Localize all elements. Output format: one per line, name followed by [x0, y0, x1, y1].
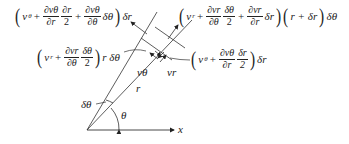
delta-theta-leader	[96, 102, 106, 104]
x-axis-label: x	[178, 124, 183, 135]
expr-sub: θ	[204, 55, 207, 63]
delta-theta-arc	[106, 100, 113, 103]
expr-frac: ∂r2	[61, 5, 72, 27]
expr-op: +	[55, 51, 61, 63]
expr-term: v	[44, 51, 49, 63]
expr-frac: δr2	[237, 48, 248, 70]
expr-term: v	[186, 10, 191, 22]
expr-term: δθ	[327, 10, 338, 22]
expr-sub: r	[192, 12, 195, 20]
expr-term: r + δr	[291, 10, 318, 22]
expr-frac: ∂vr∂θ	[206, 5, 221, 27]
arrow-top-right	[168, 25, 178, 39]
arrow-top-left	[131, 22, 147, 34]
theta-label: θ	[121, 110, 126, 121]
theta-arc	[111, 108, 119, 130]
expr-frac: δθ2	[223, 5, 235, 27]
expr-top-right: ( vr + ∂vr∂θ δθ2 + ∂vr∂r δr )( r + δr ) …	[178, 5, 338, 27]
expr-term: δr	[265, 10, 274, 22]
expr-frac: ∂vθ∂θ	[84, 5, 100, 27]
expr-frac: δθ2	[81, 46, 93, 68]
radius-label: r	[136, 83, 140, 94]
expr-term: δr	[122, 10, 131, 22]
expr-frac: ∂vr∂r	[247, 5, 262, 27]
expr-op: +	[34, 10, 40, 22]
expr-op: +	[197, 10, 203, 22]
expr-top-left: ( vθ + ∂vθ∂r ∂r2 + ∂vθ∂θ δθ ) δr	[14, 5, 133, 27]
element-outer-edge	[155, 27, 185, 48]
expr-term: δθ	[103, 10, 114, 22]
expr-term: δr	[257, 53, 266, 65]
mid-right-leader	[170, 58, 190, 60]
expr-mid-left: ( vr + ∂vr∂θ δθ2 ) r δθ	[36, 46, 121, 68]
expr-op: +	[210, 53, 216, 65]
expr-term: v	[198, 53, 203, 65]
expr-sub: θ	[28, 12, 31, 20]
expr-op: +	[238, 10, 244, 22]
expr-term: v	[22, 10, 27, 22]
expr-term: r δθ	[102, 51, 120, 63]
expr-op: +	[75, 10, 81, 22]
expr-frac: ∂vθ∂r	[219, 48, 235, 70]
v-theta-label: vθ	[137, 67, 147, 78]
v-theta-arrow	[150, 53, 158, 59]
delta-theta-label: δθ	[81, 99, 92, 110]
expr-mid-right: ( vθ + ∂vθ∂r δr2 ) δr	[190, 48, 267, 70]
expr-frac: ∂vr∂θ	[64, 46, 79, 68]
mid-left-leader	[124, 50, 146, 52]
v-r-label: vr	[167, 67, 176, 78]
expr-sub: r	[50, 53, 53, 61]
expr-frac: ∂vθ∂r	[43, 5, 59, 27]
